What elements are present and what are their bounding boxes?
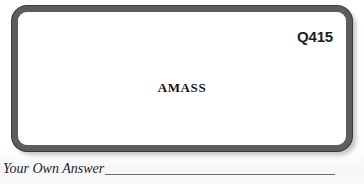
card-frame: Q415 AMASS [12, 6, 352, 151]
question-code: Q415 [297, 28, 333, 45]
question-card: Q415 AMASS [12, 6, 352, 151]
scanned-page: Q415 AMASS Your Own Answer [0, 0, 364, 184]
card-face: Q415 AMASS [18, 12, 346, 145]
vocabulary-term: AMASS [18, 80, 346, 96]
answer-row: Your Own Answer [3, 161, 361, 177]
answer-label: Your Own Answer [3, 161, 104, 177]
answer-write-in-line[interactable] [105, 174, 335, 175]
